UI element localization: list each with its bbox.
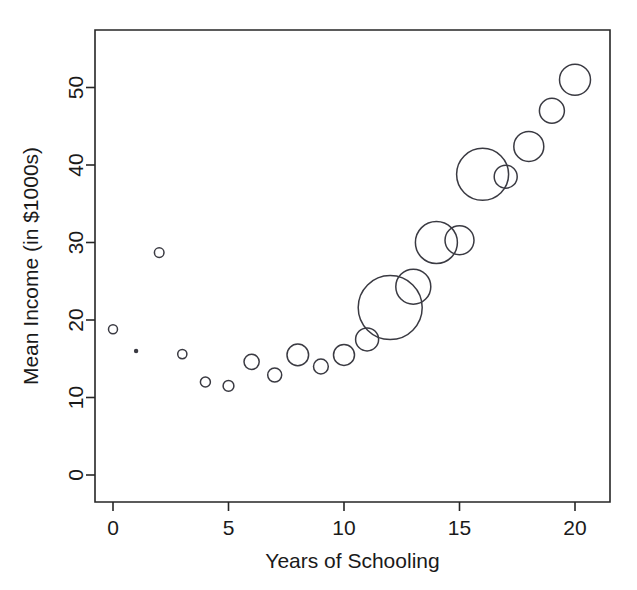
y-tick-label-10: 10 [64,386,87,409]
data-bubble [356,328,379,351]
bubble-chart-figure: 0510152001020304050 Years of SchoolingMe… [0,0,637,590]
data-bubble [223,380,234,391]
plot-border [95,30,610,502]
y-tick-label-0: 0 [64,469,87,481]
data-bubble [539,98,564,123]
plot-area: 0510152001020304050 Years of SchoolingMe… [0,0,637,590]
data-bubble [287,344,309,366]
data-bubble [178,350,187,359]
x-tick-label-0: 0 [107,516,119,539]
axis-box [95,30,610,502]
x-tick-label-10: 10 [332,516,355,539]
y-tick-label-20: 20 [64,308,87,331]
x-tick-label-15: 15 [448,516,471,539]
data-bubble [560,64,591,95]
data-bubble [134,349,138,353]
data-bubble [396,269,431,304]
data-bubble [334,344,355,365]
data-bubbles [109,64,591,391]
axis-ticks [86,88,575,512]
x-tick-label-5: 5 [223,516,235,539]
y-tick-label-30: 30 [64,231,87,254]
axis-tick-labels: 0510152001020304050 [64,76,587,539]
data-bubble [514,131,544,161]
data-bubble [200,377,210,387]
data-bubble [314,359,329,374]
data-bubble [268,368,282,382]
data-bubble [445,226,474,255]
data-bubble [244,354,259,369]
data-bubble [154,248,164,258]
data-bubble [358,276,422,340]
y-axis-title: Mean Income (in $1000s) [19,147,42,385]
data-bubble [457,148,509,200]
data-bubble [109,325,118,334]
x-tick-label-20: 20 [563,516,586,539]
y-tick-label-50: 50 [64,76,87,99]
x-axis-title: Years of Schooling [265,549,439,572]
y-tick-label-40: 40 [64,153,87,176]
